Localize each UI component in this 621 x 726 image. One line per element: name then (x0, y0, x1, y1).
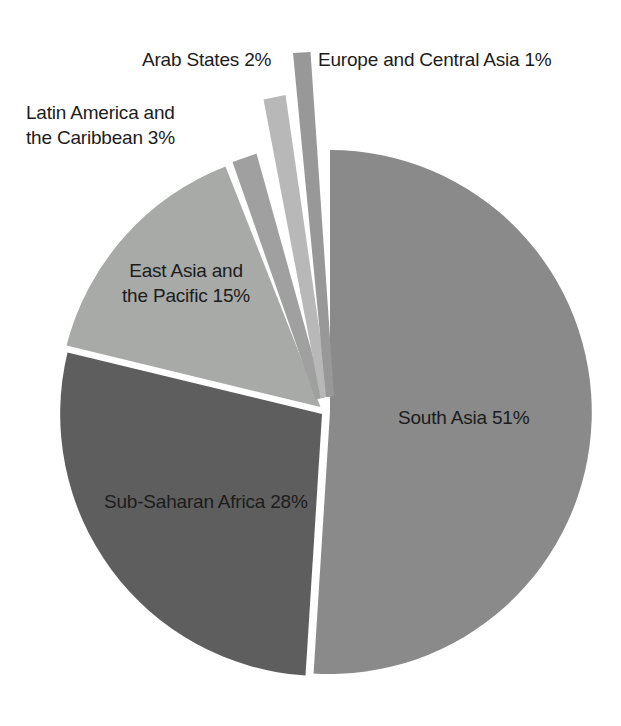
pie-label-east-asia-pacific: East Asia and the Pacific 15% (106, 258, 266, 308)
pie-label-latin-america-caribbean: Latin America and the Caribbean 3% (26, 100, 175, 150)
pie-label-south-asia: South Asia 51% (398, 405, 529, 430)
pie-label-arab-states: Arab States 2% (142, 47, 271, 72)
pie-label-sub-saharan-africa: Sub-Saharan Africa 28% (104, 489, 308, 514)
pie-chart: South Asia 51% Sub-Saharan Africa 28% Ea… (0, 0, 621, 726)
pie-slice-sub-saharan-africa[interactable] (60, 353, 322, 676)
pie-label-europe-central-asia: Europe and Central Asia 1% (318, 47, 552, 72)
